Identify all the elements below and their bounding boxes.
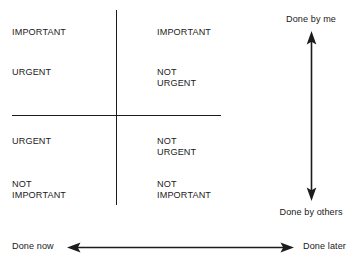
horizontal-double-arrow-icon — [66, 240, 295, 255]
quadrant-top-left-primary-label: IMPORTANT — [12, 27, 66, 38]
quadrant-bottom-right-primary-label: NOT URGENT — [157, 136, 196, 158]
quadrant-top-right-primary-label: IMPORTANT — [157, 27, 211, 38]
quadrant-top-right-secondary-label: NOT URGENT — [157, 67, 196, 89]
matrix-vertical-divider — [116, 10, 117, 205]
horizontal-axis-right-label: Done later — [303, 241, 346, 252]
vertical-axis-bottom-label: Done by others — [279, 207, 342, 218]
matrix-horizontal-divider — [12, 115, 221, 116]
vertical-double-arrow-icon — [301, 30, 322, 202]
quadrant-bottom-right-secondary-label: NOT IMPORTANT — [157, 179, 211, 201]
eisenhower-matrix-diagram: IMPORTANT URGENT IMPORTANT NOT URGENT UR… — [0, 0, 361, 267]
horizontal-axis-left-label: Done now — [12, 241, 54, 252]
quadrant-bottom-left-secondary-label: NOT IMPORTANT — [12, 179, 66, 201]
quadrant-bottom-left-primary-label: URGENT — [12, 136, 51, 147]
quadrant-top-left-secondary-label: URGENT — [12, 67, 51, 78]
vertical-axis-top-label: Done by me — [286, 14, 336, 25]
